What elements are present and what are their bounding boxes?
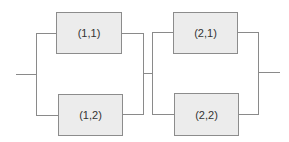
stage2-right-bus — [258, 32, 259, 115]
component-box-1-2: (1,2) — [58, 94, 123, 136]
component-label: (1,2) — [79, 109, 102, 121]
component-label: (1,1) — [78, 27, 101, 39]
output-line — [258, 72, 280, 73]
stage2-left-bus — [152, 32, 153, 115]
stage2-bottom-out-line — [238, 114, 259, 115]
input-line — [16, 74, 37, 75]
component-box-2-2: (2,2) — [174, 93, 239, 136]
stage1-right-bus — [143, 33, 144, 115]
stage1-bottom-in-line — [36, 115, 58, 116]
stage1-top-out-line — [121, 33, 143, 34]
component-box-2-1: (2,1) — [173, 12, 238, 54]
stage1-top-in-line — [36, 33, 57, 34]
component-label: (2,1) — [194, 27, 217, 39]
component-box-1-1: (1,1) — [56, 12, 122, 54]
stage2-bottom-in-line — [152, 114, 175, 115]
stage2-top-out-line — [237, 32, 259, 33]
stage2-top-in-line — [152, 32, 174, 33]
stage1-left-bus — [36, 33, 37, 115]
component-label: (2,2) — [195, 109, 218, 121]
stage1-bottom-out-line — [122, 114, 143, 115]
